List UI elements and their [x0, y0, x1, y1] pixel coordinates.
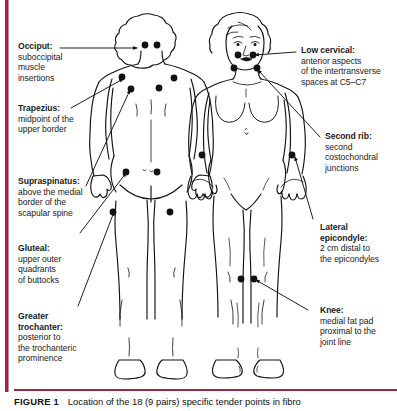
label-low-cervical-line3: spaces at C5–C7	[301, 77, 381, 88]
figure-caption: FIGURE 1Location of the 18 (9 pairs) spe…	[14, 396, 397, 408]
label-second-rib-line2: costochondral	[325, 152, 378, 163]
label-low-cervical-heading: Low cervical:	[301, 45, 381, 56]
label-knee-line3: joint line	[320, 337, 376, 348]
figure-number: FIGURE 1	[14, 396, 59, 407]
label-epicondyle-line2: the epicondyles	[320, 254, 379, 265]
label-knee-line2: proximal to the	[320, 326, 376, 337]
label-gluteal: Gluteal: upper outer quadrants of buttoc…	[18, 243, 61, 285]
tender-point-knee-left	[238, 276, 245, 283]
tender-point-low-cervical-right	[250, 52, 257, 59]
tender-point-gluteal-right	[154, 169, 161, 176]
tender-point-supraspinatus-right	[156, 85, 163, 92]
label-knee: Knee: medial fat pad proximal to the joi…	[320, 305, 376, 347]
label-supraspinatus-line2: border of the	[18, 197, 83, 208]
label-low-cervical-line1: anterior aspects	[301, 56, 381, 67]
tender-point-second-rib-right	[254, 65, 261, 72]
label-supraspinatus-line3: scapular spine	[18, 208, 83, 219]
label-second-rib-line1: second	[325, 142, 378, 153]
label-low-cervical: Low cervical: anterior aspects of the in…	[301, 45, 381, 87]
label-trapezius-line2: upper border	[18, 124, 74, 135]
label-knee-heading: Knee:	[320, 305, 376, 316]
label-gluteal-line3: of buttocks	[18, 275, 61, 286]
label-epicondyle-heading-line1: Lateral	[320, 222, 379, 233]
label-trochanter-line3: prominence	[18, 353, 76, 364]
tender-point-second-rib-left	[231, 65, 238, 72]
label-epicondyle-heading-line2: epicondyle:	[320, 233, 379, 244]
caption-divider-rule	[14, 389, 397, 391]
label-gluteal-line2: quadrants	[18, 264, 61, 275]
tender-point-epicondyle-left	[199, 152, 206, 159]
label-trapezius-heading: Trapezius:	[18, 103, 74, 114]
label-knee-line1: medial fat pad	[320, 316, 376, 327]
label-lateral-epicondyle: Lateral epicondyle: 2 cm distal to the e…	[320, 222, 379, 264]
tender-point-occiput-right	[154, 42, 161, 49]
label-gluteal-line1: upper outer	[18, 254, 61, 265]
label-low-cervical-line2: of the intertransverse	[301, 66, 381, 77]
label-second-rib-heading: Second rib:	[325, 131, 378, 142]
tender-point-epicondyle-right	[289, 152, 296, 159]
label-second-rib: Second rib: second costochondral junctio…	[325, 131, 378, 173]
label-trapezius-line1: midpoint of the	[18, 114, 74, 125]
label-trapezius: Trapezius: midpoint of the upper border	[18, 103, 74, 135]
label-occiput-heading: Occiput:	[18, 41, 62, 52]
label-greater-trochanter: Greater trochanter: posterior to the tro…	[18, 311, 76, 364]
anterior-figure-outline	[188, 13, 306, 379]
label-supraspinatus: Supraspinatus: above the medial border o…	[18, 176, 83, 218]
tender-point-trapezius-right	[171, 75, 178, 82]
tender-point-dots	[110, 42, 296, 283]
tender-point-low-cervical-left	[235, 52, 242, 59]
figure-page: Occiput: suboccipital muscle insertions …	[0, 0, 397, 411]
tender-point-knee-right	[251, 276, 258, 283]
label-trochanter-heading-line2: trochanter:	[18, 322, 76, 333]
label-trochanter-line1: posterior to	[18, 332, 76, 343]
tender-point-gluteal-left	[123, 169, 130, 176]
tender-point-trapezius-left	[119, 74, 126, 81]
tender-point-supraspinatus-left	[128, 86, 135, 93]
label-supraspinatus-line1: above the medial	[18, 187, 83, 198]
label-trochanter-heading-line1: Greater	[18, 311, 76, 322]
figure-caption-text: Location of the 18 (9 pairs) specific te…	[68, 396, 301, 407]
label-second-rib-line3: junctions	[325, 163, 378, 174]
label-occiput: Occiput: suboccipital muscle insertions	[18, 41, 62, 83]
tender-point-trochanter-right	[167, 209, 174, 216]
label-occiput-line2: muscle	[18, 62, 62, 73]
label-trochanter-line2: the trochanteric	[18, 343, 76, 354]
label-epicondyle-line1: 2 cm distal to	[320, 243, 379, 254]
label-occiput-line3: insertions	[18, 73, 62, 84]
label-occiput-line1: suboccipital	[18, 52, 62, 63]
tender-point-occiput-left	[142, 42, 149, 49]
tender-point-trochanter-left	[110, 209, 117, 216]
label-supraspinatus-heading: Supraspinatus:	[18, 176, 83, 187]
label-gluteal-heading: Gluteal:	[18, 243, 61, 254]
